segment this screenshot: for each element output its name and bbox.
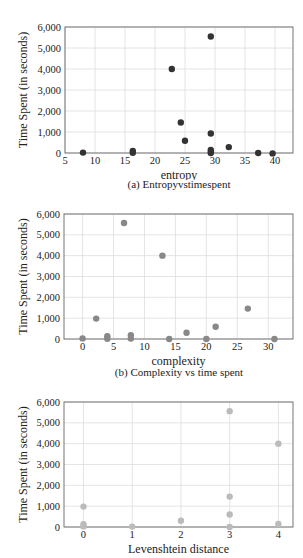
chart-levenshtein-panel: 0123401,0002,0003,0004,0005,0006,000Leve… xyxy=(0,0,303,558)
x-tick-label: 0 xyxy=(81,529,86,540)
data-point xyxy=(80,503,86,509)
y-tick-label: 4,000 xyxy=(36,438,60,449)
data-point xyxy=(275,521,281,527)
x-tick-label: 3 xyxy=(227,529,232,540)
plot-area: 0123401,0002,0003,0004,0005,0006,000Leve… xyxy=(16,397,293,557)
x-tick-label: 4 xyxy=(276,529,282,540)
y-tick-label: 1,000 xyxy=(36,501,60,512)
y-tick-label: 0 xyxy=(55,522,60,533)
data-point xyxy=(275,440,281,446)
chart-levenshtein-svg: 0123401,0002,0003,0004,0005,0006,000Leve… xyxy=(0,0,303,558)
y-tick-label: 3,000 xyxy=(36,459,60,470)
x-axis-label: Levenshtein distance xyxy=(128,542,229,556)
x-tick-label: 1 xyxy=(130,529,135,540)
x-tick-label: 2 xyxy=(178,529,183,540)
y-tick-label: 6,000 xyxy=(36,397,60,408)
y-tick-label: 2,000 xyxy=(36,480,60,491)
y-axis-label: Time Spent (in seconds) xyxy=(16,406,30,523)
data-point xyxy=(129,523,135,529)
data-point xyxy=(80,523,86,529)
data-point xyxy=(178,518,184,524)
y-tick-label: 5,000 xyxy=(36,417,60,428)
data-point xyxy=(226,524,232,530)
data-point xyxy=(226,408,232,414)
data-point xyxy=(226,511,232,517)
data-point xyxy=(226,493,232,499)
